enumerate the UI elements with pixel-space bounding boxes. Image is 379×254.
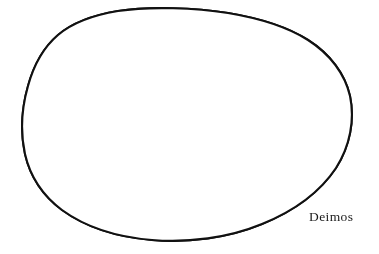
- surface-speck: [57, 11, 58, 12]
- surface-speck: [23, 155, 24, 156]
- surface-speck: [53, 27, 54, 28]
- surface-speck: [27, 60, 28, 61]
- surface-speck: [280, 18, 281, 19]
- surface-speck: [44, 24, 45, 25]
- surface-speck: [0, 104, 1, 105]
- micro-crater: [38, 44, 42, 47]
- surface-speck: [71, 3, 73, 5]
- surface-speck: [223, 9, 225, 11]
- surface-speck: [53, 16, 55, 18]
- surface-speck: [200, 7, 201, 8]
- surface-speck: [65, 24, 67, 26]
- surface-speck: [122, 5, 124, 7]
- surface-speck: [48, 38, 49, 39]
- surface-speck: [16, 72, 17, 73]
- surface-speck: [266, 4, 267, 5]
- surface-speck: [52, 17, 54, 19]
- surface-speck: [22, 59, 23, 60]
- surface-speck: [22, 75, 23, 76]
- surface-speck: [29, 49, 32, 52]
- surface-speck: [9, 72, 11, 74]
- surface-speck: [17, 96, 18, 97]
- surface-speck: [126, 5, 128, 7]
- surface-speck: [24, 55, 26, 57]
- surface-speck: [6, 141, 7, 142]
- surface-speck: [49, 39, 51, 41]
- surface-speck: [205, 8, 206, 9]
- surface-speck: [226, 1, 228, 3]
- surface-speck: [27, 54, 29, 56]
- surface-speck: [285, 25, 286, 26]
- surface-speck: [14, 129, 15, 130]
- surface-speck: [41, 48, 42, 49]
- surface-speck: [2, 129, 5, 132]
- surface-speck: [81, 3, 83, 5]
- surface-speck: [282, 19, 284, 21]
- surface-speck: [20, 57, 21, 58]
- surface-speck: [20, 69, 21, 70]
- surface-speck: [283, 20, 284, 21]
- surface-speck: [182, 1, 184, 3]
- surface-speck: [211, 3, 213, 5]
- surface-speck: [20, 167, 22, 169]
- micro-crater: [164, 0, 168, 2]
- micro-crater: [112, 1, 116, 4]
- surface-speck: [236, 0, 239, 2]
- surface-speck: [230, 6, 231, 7]
- surface-speck: [14, 117, 16, 119]
- surface-speck: [242, 8, 244, 10]
- surface-speck: [12, 139, 14, 141]
- surface-speck: [70, 11, 72, 13]
- surface-speck: [265, 11, 266, 12]
- surface-speck: [45, 42, 47, 44]
- surface-speck: [12, 133, 13, 134]
- deimos-body-outline-overlay: [22, 8, 352, 241]
- surface-speck: [251, 6, 253, 8]
- surface-speck: [68, 8, 69, 9]
- surface-speck: [251, 9, 252, 10]
- surface-speck: [23, 56, 24, 57]
- surface-speck: [249, 6, 250, 7]
- figure-label-deimos: Deimos: [309, 210, 353, 224]
- surface-speck: [18, 163, 19, 164]
- surface-speck: [14, 77, 15, 78]
- surface-speck: [6, 137, 9, 140]
- surface-speck: [32, 49, 33, 50]
- surface-speck: [7, 131, 9, 133]
- surface-speck: [157, 3, 158, 4]
- surface-speck: [28, 37, 30, 39]
- surface-speck: [49, 31, 51, 33]
- surface-speck: [11, 144, 13, 146]
- surface-speck: [272, 18, 274, 20]
- surface-speck: [19, 74, 21, 76]
- surface-speck: [2, 91, 5, 94]
- surface-speck: [161, 2, 163, 4]
- surface-speck: [14, 131, 15, 132]
- surface-speck: [95, 4, 96, 5]
- surface-speck: [262, 15, 264, 17]
- surface-speck: [156, 2, 159, 5]
- surface-speck: [94, 3, 95, 4]
- surface-speck: [7, 134, 8, 135]
- surface-speck: [19, 89, 20, 90]
- surface-speck: [68, 10, 70, 12]
- micro-crater: [134, 0, 139, 4]
- surface-speck: [15, 108, 16, 109]
- surface-speck: [232, 3, 234, 5]
- surface-speck: [53, 29, 54, 30]
- surface-speck: [216, 0, 217, 1]
- surface-speck: [120, 0, 122, 2]
- surface-speck: [263, 13, 265, 15]
- surface-speck: [286, 26, 287, 27]
- surface-speck: [89, 1, 91, 3]
- surface-speck: [202, 4, 205, 7]
- surface-speck: [87, 9, 88, 10]
- surface-speck: [11, 83, 12, 84]
- surface-speck: [13, 144, 14, 145]
- surface-speck: [204, 0, 206, 2]
- surface-speck: [15, 68, 16, 69]
- surface-speck: [10, 67, 12, 69]
- surface-speck: [88, 0, 91, 1]
- surface-speck: [66, 19, 70, 23]
